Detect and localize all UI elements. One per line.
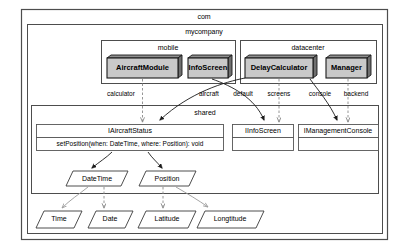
package-datacenter-label: datacenter	[291, 44, 325, 51]
component-delay-calculator-side	[313, 55, 317, 78]
datatype-latitude[interactable]: Latitude	[138, 211, 196, 228]
component-aircraft-module-label: AircraftModule	[116, 63, 169, 72]
datatype-position-label: Position	[155, 175, 180, 182]
diagram-canvas: com mycompany mobile datacenter Aircraft…	[0, 0, 408, 248]
interface-iaircraftstatus-label: IAircraftStatus	[108, 127, 152, 134]
uml-component-diagram: com mycompany mobile datacenter Aircraft…	[0, 0, 408, 248]
component-aircraft-module-side	[178, 55, 182, 78]
dependency-datetime-time	[62, 187, 88, 208]
component-info-screen-label: InfoScreen	[189, 63, 228, 72]
package-shared-label: shared	[194, 109, 216, 116]
component-info-screen[interactable]: InfoScreen	[188, 55, 232, 78]
interface-imanagementconsole-label: IManagementConsole	[304, 127, 373, 135]
datatype-longtitude-label: Longtitude	[214, 215, 247, 223]
edge-label-screens: screens	[268, 90, 292, 97]
component-info-screen-side	[228, 55, 232, 78]
dependency-console	[310, 79, 337, 120]
dependency-position-longtitude	[176, 187, 208, 207]
dependency-iaircraftstatus-position	[148, 152, 162, 168]
datatype-time[interactable]: Time	[36, 211, 82, 228]
component-aircraft-module[interactable]: AircraftModule	[107, 55, 182, 78]
package-mycompany-label: mycompany	[185, 28, 223, 36]
component-manager[interactable]: Manager	[326, 55, 371, 78]
dependency-iaircraftstatus-datetime	[92, 152, 112, 168]
edge-label-calculator: calculator	[107, 90, 136, 97]
datatype-datetime[interactable]: DateTime	[66, 171, 128, 186]
datatype-position[interactable]: Position	[139, 171, 196, 186]
datatype-longtitude[interactable]: Longtitude	[197, 211, 264, 228]
interface-iinfoscreen[interactable]: IInfoScreen	[233, 125, 294, 151]
interface-imanagementconsole-operations	[299, 138, 379, 151]
edge-label-default: default	[233, 90, 253, 97]
interface-imanagementconsole[interactable]: IManagementConsole	[299, 125, 379, 151]
datatype-datetime-label: DateTime	[82, 175, 112, 182]
interface-iaircraftstatus[interactable]: IAircraftStatus setPosition(when: DateTi…	[37, 125, 224, 151]
interface-iinfoscreen-operations	[233, 138, 294, 151]
edge-label-aircraft: aircraft	[199, 90, 219, 97]
datatype-date-label: Date	[103, 215, 118, 222]
interface-iaircraftstatus-operation-0: setPosition(when: DateTime, where: Posit…	[57, 140, 204, 148]
edge-label-backend: backend	[344, 90, 369, 97]
datatype-time-label: Time	[51, 215, 66, 222]
component-delay-calculator-label: DelayCalculator	[251, 63, 308, 72]
component-delay-calculator[interactable]: DelayCalculator	[245, 55, 317, 78]
edge-label-console: console	[309, 90, 332, 97]
component-manager-side	[367, 55, 371, 78]
component-manager-label: Manager	[331, 63, 362, 72]
datatype-date[interactable]: Date	[88, 211, 133, 228]
package-com-label: com	[197, 13, 210, 20]
package-mobile-label: mobile	[158, 44, 179, 51]
datatype-latitude-label: Latitude	[155, 215, 180, 222]
interface-iinfoscreen-label: IInfoScreen	[245, 127, 281, 134]
